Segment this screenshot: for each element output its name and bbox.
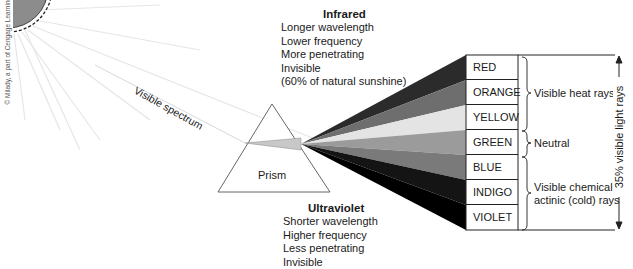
ultraviolet-info: Ultraviolet Shorter wavelength Higher fr… bbox=[283, 202, 378, 269]
color-row-violet: VIOLET bbox=[466, 205, 518, 230]
chemical-rays-label: Visible chemical bbox=[534, 181, 613, 194]
prism-label: Prism bbox=[258, 169, 286, 181]
ultraviolet-line: Invisible bbox=[283, 256, 378, 269]
color-row-indigo: INDIGO bbox=[466, 180, 518, 205]
ultraviolet-line: Higher frequency bbox=[283, 229, 378, 242]
color-row-blue: BLUE bbox=[466, 155, 518, 180]
infrared-line: Lower frequency bbox=[281, 35, 406, 48]
ultraviolet-line: Less penetrating bbox=[283, 242, 378, 255]
color-row-red: RED bbox=[466, 55, 518, 80]
group-brackets bbox=[522, 57, 531, 230]
color-row-yellow: YELLOW bbox=[466, 105, 518, 130]
infrared-line: (60% of natural sunshine) bbox=[281, 75, 406, 88]
visible-light-percentage-label: 35% visible light rays bbox=[613, 77, 625, 197]
color-row-green: GREEN bbox=[466, 130, 518, 155]
infrared-info: Infrared Longer wavelength Lower frequen… bbox=[281, 8, 406, 88]
infrared-line: Invisible bbox=[281, 62, 406, 75]
heat-rays-label: Visible heat rays bbox=[534, 87, 615, 100]
ultraviolet-line: Shorter wavelength bbox=[283, 215, 378, 228]
ultraviolet-title: Ultraviolet bbox=[283, 202, 378, 215]
neutral-label: Neutral bbox=[534, 137, 569, 150]
color-row-orange: ORANGE bbox=[466, 80, 518, 105]
chemical-rays-label-2: actinic (cold) rays bbox=[534, 194, 620, 207]
infrared-line: More penetrating bbox=[281, 48, 406, 61]
infrared-line: Longer wavelength bbox=[281, 21, 406, 34]
infrared-title: Infrared bbox=[281, 8, 406, 21]
copyright-text: © Milady, a part of Cengage Learning bbox=[4, 0, 11, 105]
